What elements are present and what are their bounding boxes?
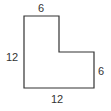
l-shape-outline bbox=[24, 16, 94, 88]
label-top: 6 bbox=[38, 2, 44, 14]
label-left: 12 bbox=[6, 51, 18, 63]
l-shape-diagram: 6 12 6 12 bbox=[0, 0, 111, 111]
label-bottom: 12 bbox=[51, 93, 63, 105]
label-right: 6 bbox=[98, 65, 104, 77]
